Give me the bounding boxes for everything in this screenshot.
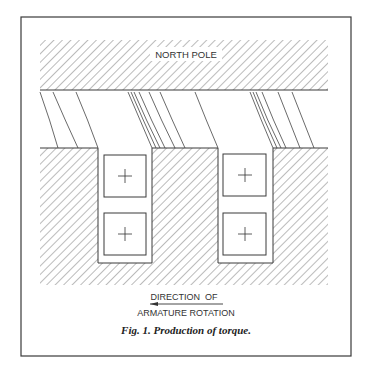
- flux-lines: [40, 92, 314, 148]
- armature: [40, 148, 328, 285]
- conductor-slot1-top: [104, 155, 146, 197]
- diagram-canvas: NORTH POLE: [0, 0, 369, 368]
- figure-caption: Fig. 1. Production of torque.: [120, 324, 251, 336]
- conductor-slot2-bottom: [223, 213, 266, 255]
- slot-2: [223, 154, 266, 255]
- conductor-slot2-top: [223, 154, 266, 196]
- torque-diagram-figure: NORTH POLE: [0, 0, 369, 368]
- left-arrow-icon: [150, 302, 223, 306]
- north-pole-label: NORTH POLE: [155, 49, 217, 60]
- north-pole: NORTH POLE: [40, 40, 328, 90]
- conductor-slot1-bottom: [104, 213, 146, 255]
- direction-label-line1: DIRECTION OF: [151, 292, 219, 302]
- slot-1: [104, 155, 146, 255]
- direction-label-line2: ARMATURE ROTATION: [137, 308, 235, 318]
